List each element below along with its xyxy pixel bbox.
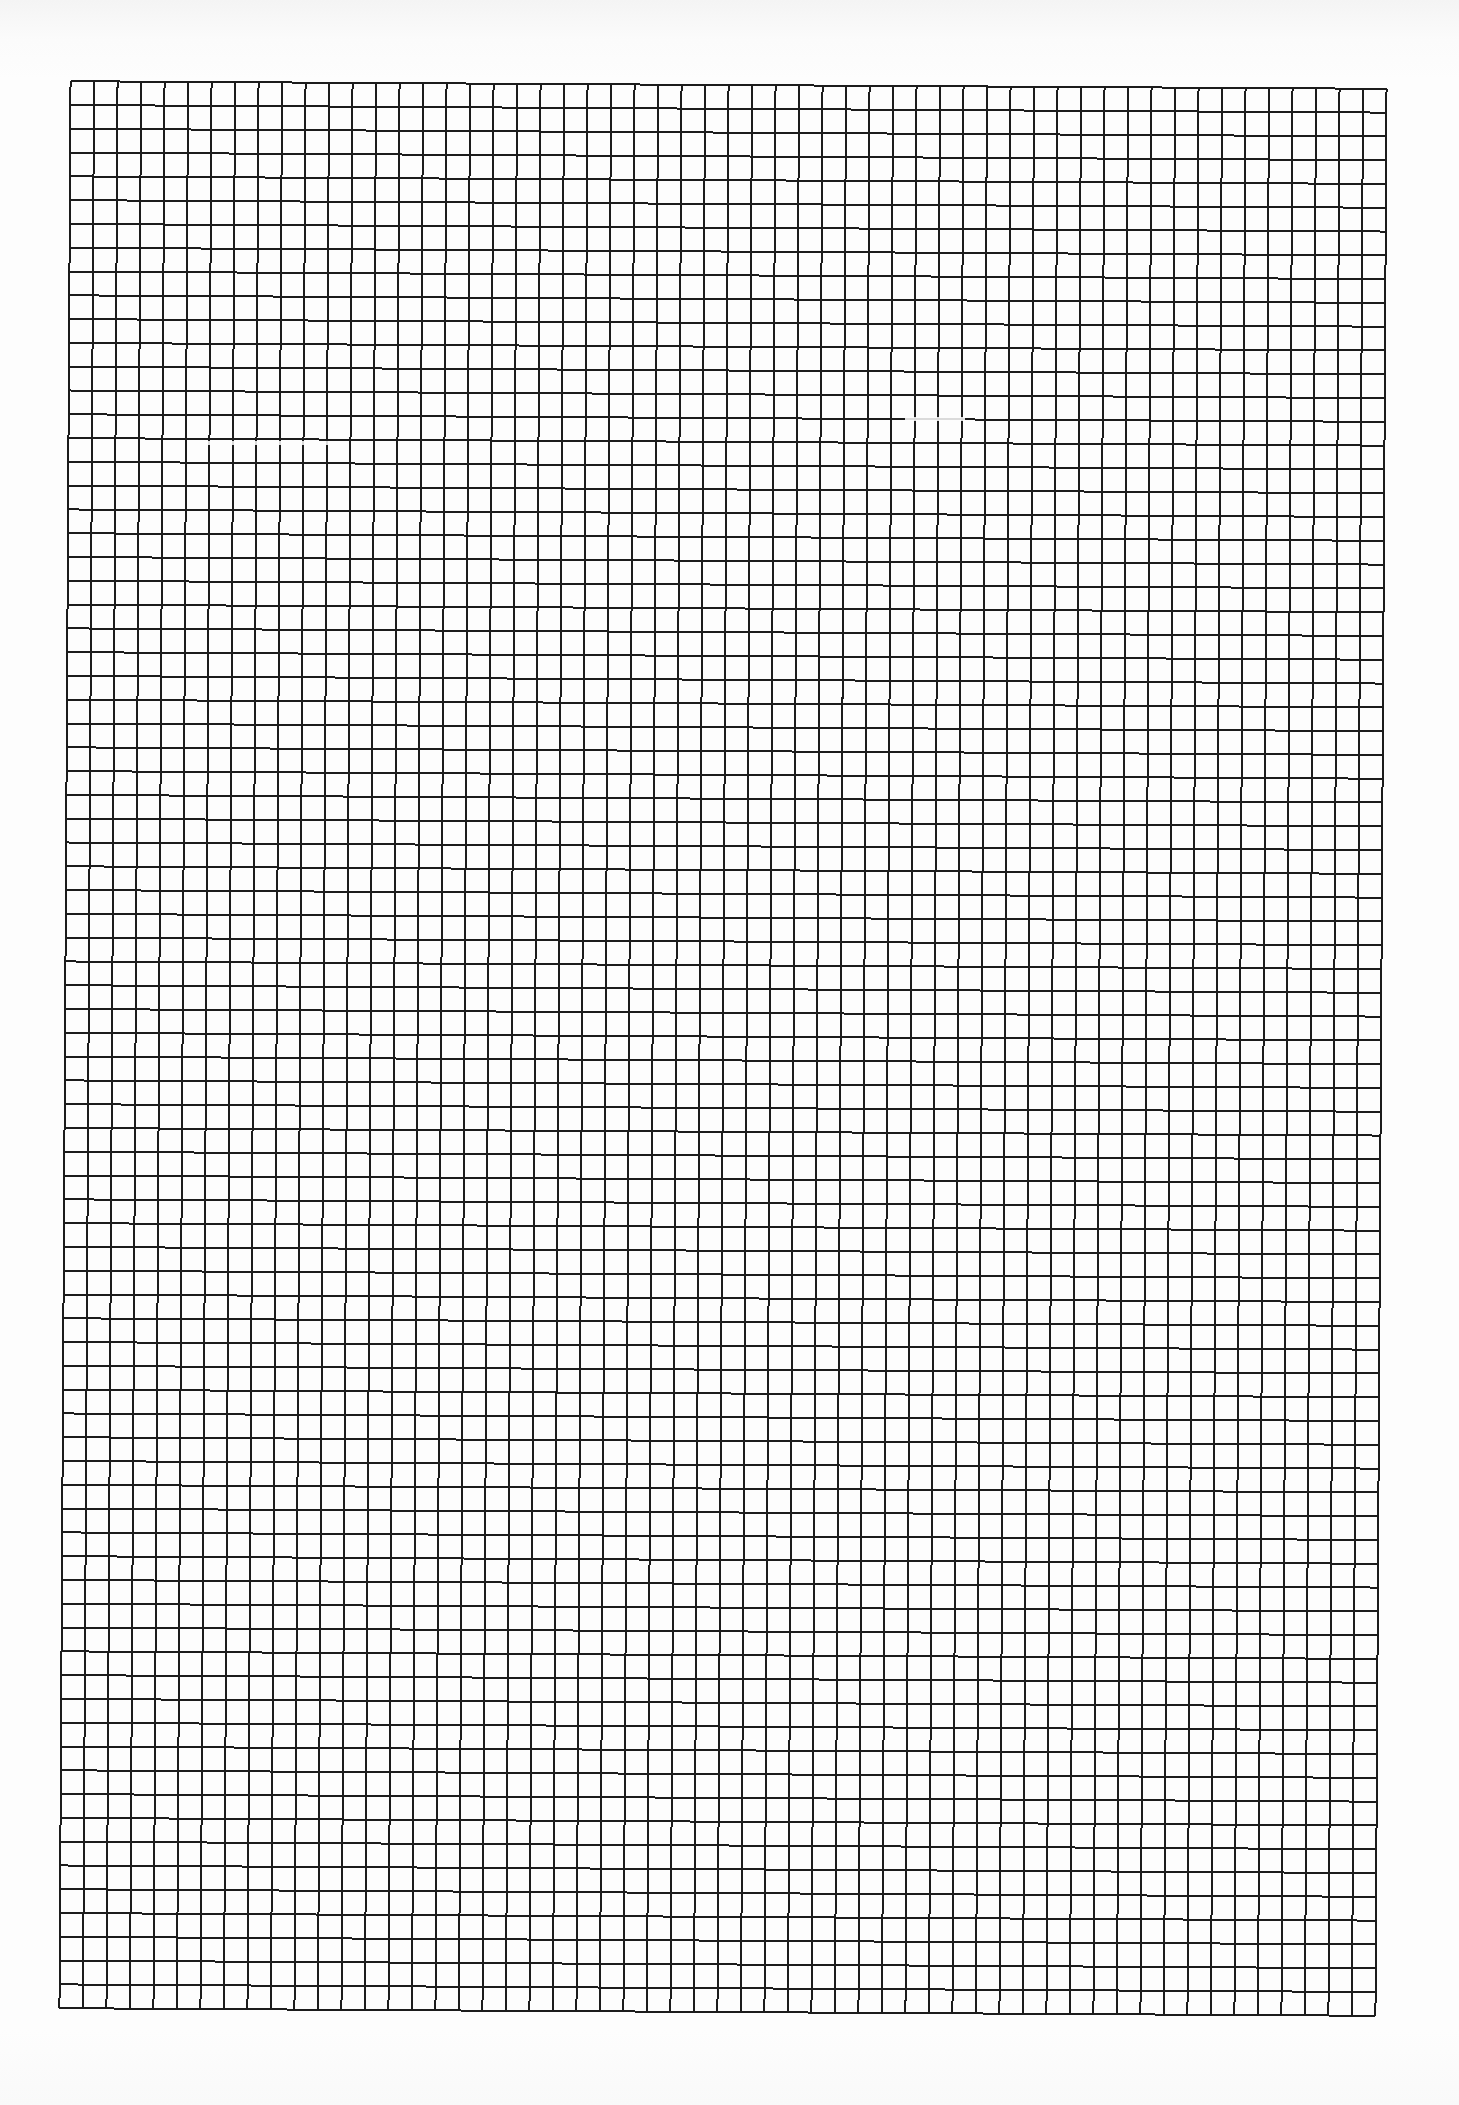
grid-vertical-line <box>764 85 775 2012</box>
grid-vertical-line <box>224 82 235 2009</box>
grid-vertical-line <box>1164 88 1175 2015</box>
grid-vertical-line <box>1117 87 1128 2014</box>
grid-vertical-line <box>1023 87 1034 2014</box>
scan-artifact <box>200 441 330 445</box>
grid-vertical-line <box>976 87 987 2014</box>
grid-vertical-line <box>929 86 940 2013</box>
grid-vertical-line <box>153 82 164 2009</box>
grid-vertical-line <box>741 85 752 2012</box>
grid-vertical-line <box>83 81 94 2008</box>
grid-vertical-line <box>459 84 470 2011</box>
grid-vertical-line <box>529 84 540 2011</box>
grid-vertical-line <box>341 83 352 2010</box>
graph-paper-page <box>0 0 1459 2105</box>
grid-vertical-line <box>318 83 329 2010</box>
grid-vertical-line <box>1187 88 1198 2015</box>
grid-vertical-line <box>882 86 893 2013</box>
grid-vertical-line <box>365 83 376 2010</box>
grid-vertical-line <box>600 84 611 2011</box>
grid-vertical-line <box>952 86 963 2013</box>
grid-vertical-line <box>553 84 564 2011</box>
grid-vertical-line <box>623 84 634 2011</box>
grid-vertical-line <box>247 82 258 2009</box>
grid-vertical-line <box>576 84 587 2011</box>
grid-vertical-line <box>200 82 211 2009</box>
grid-vertical-line <box>130 82 141 2009</box>
grid-vertical-line <box>294 83 305 2010</box>
grid-vertical-line <box>717 85 728 2012</box>
grid-vertical-line <box>106 81 117 2008</box>
grid-vertical-line <box>1281 88 1292 2015</box>
grid-vertical-line <box>1328 89 1339 2016</box>
grid-vertical-line <box>1140 87 1151 2014</box>
grid-vertical-line <box>506 84 517 2011</box>
grid-vertical-line <box>999 87 1010 2014</box>
grid-vertical-line <box>1352 89 1363 2016</box>
grid-vertical-line <box>670 85 681 2012</box>
grid-vertical-line <box>1258 88 1269 2015</box>
grid-vertical-line <box>412 83 423 2010</box>
grid-vertical-line <box>1093 87 1104 2014</box>
grid-vertical-line <box>435 83 446 2010</box>
grid-vertical-line <box>1305 88 1316 2015</box>
grid-vertical-line <box>59 81 70 2008</box>
grid-vertical-line <box>788 85 799 2012</box>
grid-vertical-line <box>1234 88 1245 2015</box>
grid-vertical-line <box>271 82 282 2009</box>
grid-vertical-line <box>905 86 916 2013</box>
grid-vertical-line <box>858 86 869 2013</box>
grid-vertical-line <box>1070 87 1081 2014</box>
grid-vertical-line <box>1211 88 1222 2015</box>
grid-vertical-line <box>835 86 846 2013</box>
graph-grid <box>0 0 1459 2105</box>
grid-vertical-line <box>647 85 658 2012</box>
grid-vertical-line <box>482 84 493 2011</box>
grid-vertical-line <box>177 82 188 2009</box>
grid-area <box>0 0 1459 2105</box>
grid-vertical-line <box>811 86 822 2013</box>
grid-vertical-line <box>1046 87 1057 2014</box>
scan-artifact <box>905 417 965 421</box>
grid-vertical-line <box>1375 89 1386 2016</box>
grid-vertical-line <box>694 85 705 2012</box>
grid-vertical-line <box>388 83 399 2010</box>
